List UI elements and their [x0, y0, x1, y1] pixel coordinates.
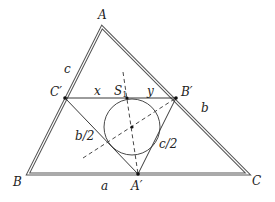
dashed-line-s1-a-prime — [123, 72, 138, 174]
point-c-prime — [63, 96, 67, 100]
point-b-prime — [174, 96, 178, 100]
label-a: A — [97, 8, 107, 22]
label-y: y — [146, 84, 154, 98]
label-c: C — [252, 174, 261, 188]
point-incenter — [130, 125, 133, 128]
label-b: B — [12, 175, 22, 189]
label-side-b: b — [201, 101, 209, 115]
label-side-c: c — [64, 62, 71, 76]
point-a-prime — [136, 172, 140, 176]
label-side-a: a — [101, 179, 108, 193]
label-x: x — [94, 84, 101, 98]
label-b-prime: B′ — [180, 85, 193, 99]
outer-triangle-abc — [28, 27, 248, 174]
label-c-prime: C′ — [50, 85, 62, 99]
label-c-half: c/2 — [159, 137, 177, 151]
label-a-prime: A′ — [130, 179, 143, 193]
label-b-half: b/2 — [75, 129, 94, 143]
triangle-diagram: A B C C′ B′ A′ S1 c b a x y b/2 c/2 — [0, 0, 275, 202]
